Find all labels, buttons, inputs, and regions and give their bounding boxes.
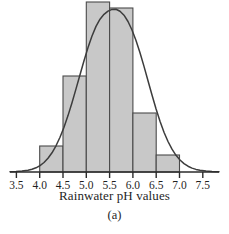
panel-label: (a) (0, 207, 229, 223)
figure-panel-a: 3.5 4.0 4.5 5.0 5.5 6.0 6.5 7.0 7.5 Rain… (0, 0, 229, 234)
histogram-bar (63, 76, 86, 172)
histogram-bar (86, 2, 109, 172)
x-axis-title: Rainwater pH values (0, 188, 229, 204)
figure-caption-block: Rainwater pH values (a) (0, 188, 229, 223)
histogram-bar (40, 146, 63, 172)
histogram-bar (133, 113, 156, 172)
histogram-bar (110, 8, 133, 172)
x-axis-ticks (16, 172, 202, 178)
histogram-bar (156, 155, 179, 172)
histogram-plot: 3.5 4.0 4.5 5.0 5.5 6.0 6.5 7.0 7.5 (0, 0, 229, 190)
histogram-bars (40, 2, 180, 172)
